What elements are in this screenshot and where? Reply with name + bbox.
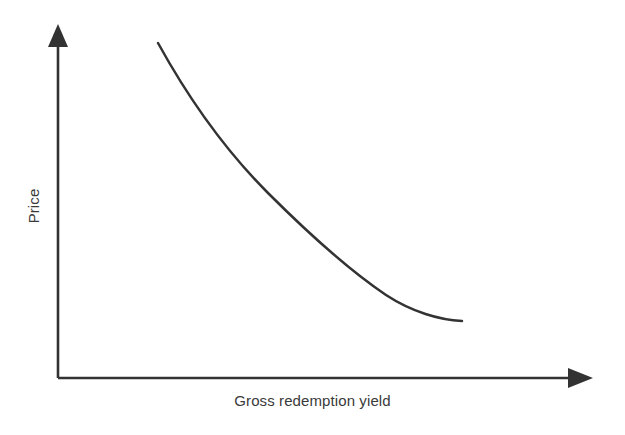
x-axis-label: Gross redemption yield: [0, 392, 625, 409]
chart-plot-area: [0, 0, 625, 435]
chart-figure: Price Gross redemption yield: [0, 0, 625, 435]
y-axis-arrowhead-icon: [48, 24, 68, 47]
price-yield-curve: [158, 43, 462, 321]
x-axis-arrowhead-icon: [568, 368, 593, 388]
y-axis-label: Price: [25, 171, 42, 241]
